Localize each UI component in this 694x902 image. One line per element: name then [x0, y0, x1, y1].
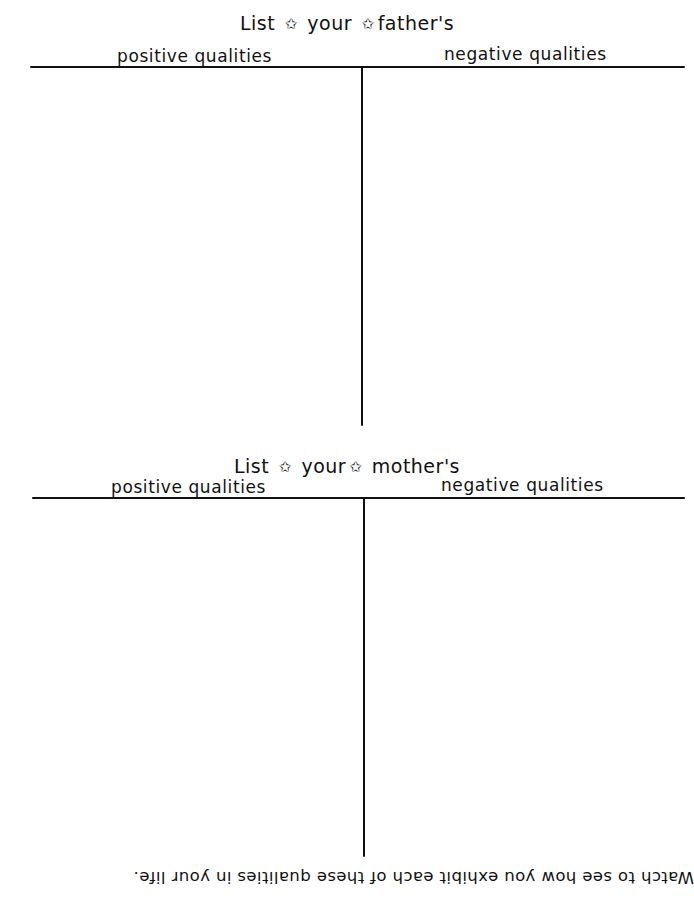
footer-instruction-upside-down: Watch to see how you exhibit each of the…	[74, 868, 694, 887]
star-icon: ✩	[279, 458, 292, 476]
mother-vertical-divider	[363, 497, 365, 857]
mother-positive-qualities-area[interactable]	[32, 501, 362, 856]
title-word-list: List	[240, 12, 275, 34]
title-word-your: your	[307, 12, 352, 34]
father-positive-qualities-area[interactable]	[30, 70, 360, 425]
mother-negative-qualities-label: negative qualities	[441, 475, 604, 495]
father-section-title: List ✩ your ✩father's	[0, 12, 694, 34]
title-word-father: father's	[378, 12, 454, 34]
worksheet-page: List ✩ your ✩father's positive qualities…	[0, 0, 694, 902]
title-word-your: your	[301, 455, 346, 477]
mother-section-title: List ✩ your✩ mother's	[0, 455, 694, 477]
father-negative-qualities-label: negative qualities	[444, 44, 607, 64]
star-icon: ✩	[362, 15, 375, 33]
father-negative-qualities-area[interactable]	[364, 70, 685, 425]
mother-negative-qualities-area[interactable]	[366, 501, 685, 856]
father-positive-qualities-label: positive qualities	[117, 46, 272, 66]
title-word-mother: mother's	[372, 455, 460, 477]
father-horizontal-divider	[30, 66, 685, 68]
title-word-list: List	[234, 455, 269, 477]
star-icon: ✩	[349, 458, 362, 476]
father-vertical-divider	[361, 66, 363, 426]
star-icon: ✩	[285, 15, 298, 33]
mother-horizontal-divider	[32, 497, 685, 499]
mother-positive-qualities-label: positive qualities	[111, 477, 266, 497]
